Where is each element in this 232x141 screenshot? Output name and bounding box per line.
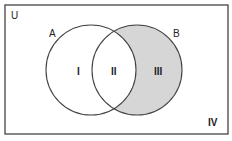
set-a-label: A bbox=[49, 28, 56, 39]
region-i-label: I bbox=[77, 66, 80, 77]
set-b-label: B bbox=[173, 28, 180, 39]
universe-label: U bbox=[11, 10, 18, 21]
region-ii-label: II bbox=[111, 66, 117, 77]
region-iii-label: III bbox=[154, 66, 163, 77]
region-iv-label: IV bbox=[208, 117, 218, 128]
venn-diagram: U A B I II III IV bbox=[0, 0, 232, 141]
